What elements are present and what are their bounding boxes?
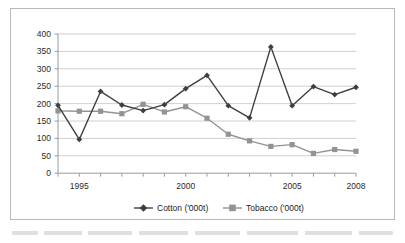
square-marker[interactable] [162, 109, 167, 114]
square-marker-icon [229, 205, 236, 212]
diamond-marker[interactable] [268, 44, 274, 50]
square-marker[interactable] [268, 144, 273, 149]
y-tick-label: 350 [37, 46, 51, 56]
diamond-marker[interactable] [140, 108, 146, 114]
square-marker[interactable] [353, 149, 358, 154]
x-tick-label: 2005 [283, 181, 302, 191]
diamond-marker[interactable] [332, 92, 338, 98]
y-tick-label: 150 [37, 116, 51, 126]
x-tick-label: 2008 [347, 181, 366, 191]
y-tick-label: 300 [37, 64, 51, 74]
figure-container: 400 350 300 250 200 150 100 50 0 1995 20… [0, 0, 405, 243]
y-tick-label: 0 [46, 168, 51, 178]
y-tick-label: 400 [37, 29, 51, 39]
series-line [58, 47, 356, 140]
square-marker[interactable] [183, 104, 188, 109]
chart-frame: 400 350 300 250 200 150 100 50 0 1995 20… [10, 8, 395, 220]
legend-label-cotton: Cotton ('000t) [157, 203, 208, 213]
line-chart: 400 350 300 250 200 150 100 50 0 1995 20… [11, 9, 394, 219]
gridlines [58, 34, 356, 156]
y-tick-label: 100 [37, 133, 51, 143]
x-axis-tick-labels: 1995 2000 2005 2008 [70, 181, 366, 191]
square-marker[interactable] [77, 109, 82, 114]
square-marker[interactable] [98, 109, 103, 114]
legend-label-tobacco: Tobacco ('000t) [246, 203, 304, 213]
square-marker[interactable] [290, 142, 295, 147]
diamond-marker[interactable] [247, 115, 253, 121]
square-marker[interactable] [247, 138, 252, 143]
y-tick-label: 250 [37, 81, 51, 91]
series-tobacco [55, 102, 358, 156]
square-marker[interactable] [332, 147, 337, 152]
series-cotton [55, 44, 359, 142]
diamond-marker-icon [140, 204, 148, 212]
y-axis-tick-labels: 400 350 300 250 200 150 100 50 0 [37, 29, 51, 178]
x-tick-label: 2000 [176, 181, 195, 191]
x-axis-ticks [58, 173, 356, 177]
diamond-marker[interactable] [353, 84, 359, 90]
y-tick-label: 200 [37, 99, 51, 109]
x-tick-label: 1995 [70, 181, 89, 191]
square-marker[interactable] [141, 102, 146, 107]
legend-item-tobacco[interactable]: Tobacco ('000t) [223, 203, 304, 213]
text-line-ghost [12, 231, 393, 235]
y-tick-label: 50 [42, 151, 52, 161]
chart-legend: Cotton ('000t) Tobacco ('000t) [134, 203, 304, 213]
page-body-text-fragment [12, 226, 393, 240]
square-marker[interactable] [311, 151, 316, 156]
square-marker[interactable] [204, 116, 209, 121]
square-marker[interactable] [119, 111, 124, 116]
legend-item-cotton[interactable]: Cotton ('000t) [134, 203, 208, 213]
square-marker[interactable] [226, 132, 231, 137]
